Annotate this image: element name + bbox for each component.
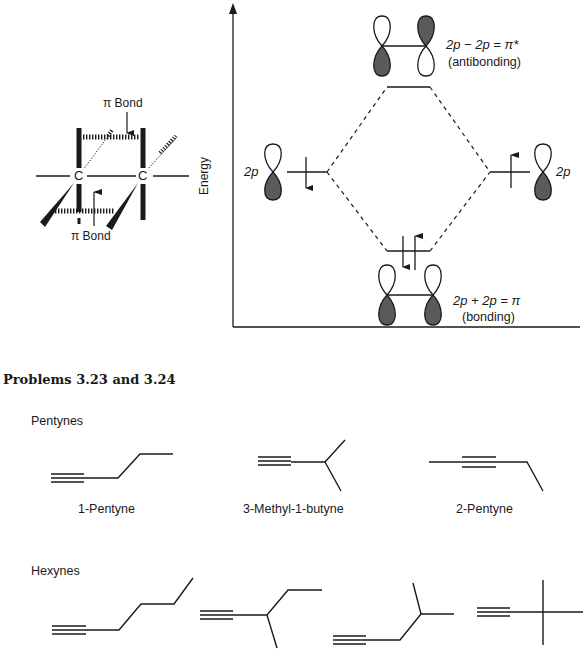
- name-1-pentyne: 1-Pentyne: [78, 502, 135, 516]
- pentynes-section-label: Pentynes: [31, 414, 83, 428]
- right-2p-orbital: [535, 144, 552, 200]
- right-wedge-bond: [106, 183, 138, 230]
- left-wedge-bond: [40, 183, 74, 227]
- name-3-methyl-1-butyne: 3-Methyl-1-butyne: [243, 502, 344, 516]
- name-2-pentyne: 2-Pentyne: [456, 502, 513, 516]
- structure-1-pentyne: [51, 454, 173, 482]
- figure-canvas: [0, 0, 583, 651]
- bonding-orbital-pair: [379, 265, 442, 325]
- right-2p-label: 2p: [556, 164, 570, 179]
- structure-1-hexyne: [52, 578, 193, 634]
- left-2p-label: 2p: [244, 164, 258, 179]
- structure-3-3-dimethyl-1-butyne: [477, 580, 583, 645]
- structure-3-methyl-1-pentyne: [200, 590, 322, 648]
- bottom-pi-bond-label: π Bond: [71, 229, 111, 243]
- left-2p-orbital: [265, 144, 282, 200]
- carbon-atom-left: C: [73, 168, 84, 183]
- antibonding-orbital-pair: [374, 16, 435, 76]
- bonding-equation: 2p + 2p = π: [453, 293, 520, 308]
- structure-2-pentyne: [429, 457, 543, 491]
- energy-diagram: [229, 3, 580, 327]
- axis-arrowhead: [229, 3, 237, 14]
- carbon-atom-right: C: [137, 168, 148, 183]
- bonding-label: (bonding): [462, 310, 515, 324]
- antibonding-label: (antibonding): [448, 55, 521, 69]
- structure-4-methyl-1-pentyne: [333, 583, 454, 644]
- antibonding-equation: 2p − 2p = π*: [446, 37, 518, 52]
- problems-heading: Problems 3.23 and 3.24: [3, 372, 176, 387]
- structure-3-methyl-1-butyne: [258, 440, 345, 491]
- top-pi-bond-label: π Bond: [103, 96, 143, 110]
- pi-bond-figure: [36, 112, 189, 226]
- energy-axis-label: Energy: [197, 157, 211, 195]
- hexynes-section-label: Hexynes: [31, 564, 80, 578]
